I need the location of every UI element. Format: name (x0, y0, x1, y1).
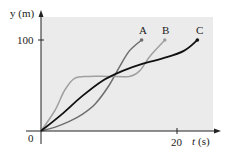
y-tick-label-100: 100 (17, 34, 34, 46)
endpoint-a (140, 38, 144, 42)
x-axis-label: t(s) (192, 135, 210, 148)
curve-label-b: B (162, 24, 169, 36)
plot-background (41, 17, 213, 131)
curve-label-c: C (196, 24, 203, 36)
origin-label: 0 (28, 132, 34, 144)
endpoint-c (196, 38, 200, 42)
endpoint-b (163, 38, 167, 42)
x-tick-label-20: 20 (171, 136, 183, 148)
y-axis-label: y (m) (10, 7, 34, 20)
chart: y (m) 100 0 20 t(s) A B C (0, 0, 240, 154)
x-axis-arrow-icon (214, 129, 221, 134)
y-axis-arrow-icon (39, 10, 44, 17)
curve-label-a: A (139, 24, 147, 36)
